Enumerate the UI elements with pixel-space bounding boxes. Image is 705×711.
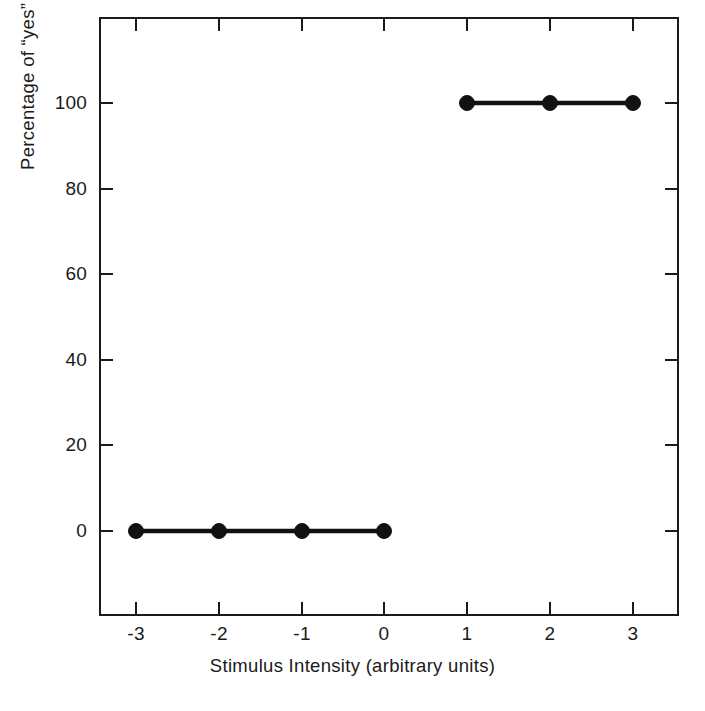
x-axis-ticks-bottom <box>136 602 633 615</box>
y-axis-ticks-left <box>100 103 113 531</box>
x-tick-label-neg1: -1 <box>293 623 310 645</box>
data-point <box>543 96 558 111</box>
y-axis-ticks-right <box>665 103 678 531</box>
y-tick-label-80: 80 <box>40 178 87 200</box>
series-lower-branch <box>129 524 392 539</box>
data-point <box>295 524 310 539</box>
plot-canvas <box>0 0 705 711</box>
x-axis-ticks-top <box>136 18 633 31</box>
data-point <box>212 524 227 539</box>
y-tick-label-60: 60 <box>40 263 87 285</box>
data-point <box>377 524 392 539</box>
y-tick-label-20: 20 <box>40 434 87 456</box>
x-tick-label-2: 2 <box>545 623 556 645</box>
y-tick-label-0: 0 <box>40 520 87 542</box>
data-point <box>129 524 144 539</box>
series-upper-branch <box>460 96 641 111</box>
y-tick-label-100: 100 <box>40 92 87 114</box>
x-axis-title: Stimulus Intensity (arbitrary units) <box>0 655 705 677</box>
x-tick-label-0: 0 <box>379 623 390 645</box>
x-tick-label-neg3: -3 <box>127 623 144 645</box>
data-point <box>626 96 641 111</box>
data-point <box>460 96 475 111</box>
x-tick-label-1: 1 <box>462 623 473 645</box>
y-tick-label-40: 40 <box>40 349 87 371</box>
x-tick-label-neg2: -2 <box>210 623 227 645</box>
chart-figure: 0 20 40 60 80 100 -3 -2 -1 0 1 2 3 Stimu… <box>0 0 705 711</box>
x-tick-label-3: 3 <box>628 623 639 645</box>
y-axis-title: Percentage of “yes” Responses <box>13 0 43 346</box>
